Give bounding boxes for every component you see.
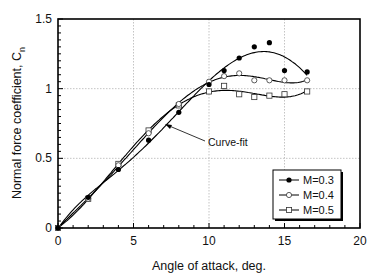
open-circle-marker — [267, 78, 272, 83]
open-circle-marker — [305, 78, 310, 83]
filled-circle-marker — [116, 167, 121, 172]
curve-fit-annotation: Curve-fit — [165, 124, 248, 148]
legend-shadow-side — [341, 172, 343, 221]
legend-label: M=0.5 — [303, 204, 334, 216]
open-circle-marker — [237, 71, 242, 76]
filled-circle-marker — [222, 68, 227, 73]
y-tick-label: 0 — [45, 221, 52, 235]
x-tick-label: 0 — [55, 234, 62, 248]
y-tick-label: 1 — [45, 82, 52, 96]
y-tick-label: 1.5 — [35, 12, 52, 26]
filled-circle-marker — [86, 195, 91, 200]
filled-circle-marker — [237, 55, 242, 60]
filled-circle-marker — [252, 44, 257, 49]
open-circle-marker — [282, 78, 287, 83]
filled-circle-marker — [286, 177, 291, 182]
filled-circle-marker — [146, 138, 151, 143]
x-axis-title: Angle of attack, deg. — [152, 259, 266, 273]
open-square-marker — [222, 83, 227, 88]
legend: M=0.3M=0.4M=0.5 — [273, 170, 343, 221]
filled-circle-marker — [206, 82, 211, 87]
open-square-marker — [237, 92, 242, 97]
x-tick-label: 15 — [278, 234, 292, 248]
open-circle-marker — [176, 101, 181, 106]
data-markers — [55, 40, 309, 231]
open-circle-marker — [222, 74, 227, 79]
x-tick-label: 10 — [202, 234, 216, 248]
filled-circle-marker — [282, 68, 287, 73]
x-tick-label: 20 — [353, 234, 367, 248]
y-axis-title: Normal force coefficient, Cn — [10, 47, 27, 199]
curve-fit-line — [58, 90, 307, 227]
x-tick-label: 5 — [130, 234, 137, 248]
filled-circle-marker — [305, 69, 310, 74]
normal-force-chart: 0510152000.511.5 Angle of attack, deg. N… — [0, 0, 376, 277]
y-tick-label: 0.5 — [35, 151, 52, 165]
filled-circle-marker — [176, 110, 181, 115]
open-circle-marker — [286, 192, 291, 197]
legend-shadow — [275, 219, 343, 221]
open-square-marker — [267, 93, 272, 98]
filled-circle-marker — [267, 40, 272, 45]
y-axis-title-subscript: n — [17, 47, 27, 52]
open-square-marker — [206, 89, 211, 94]
open-circle-marker — [146, 131, 151, 136]
open-square-marker — [282, 92, 287, 97]
open-circle-marker — [252, 78, 257, 83]
arrow-head-icon — [165, 124, 172, 129]
legend-label: M=0.4 — [303, 189, 334, 201]
y-axis-title-main: Normal force coefficient, C — [10, 52, 24, 199]
open-square-marker — [252, 94, 257, 99]
open-square-marker — [305, 89, 310, 94]
curve-fit-label: Curve-fit — [208, 136, 248, 148]
legend-label: M=0.3 — [303, 174, 334, 186]
open-square-marker — [286, 207, 291, 212]
annotation-arrow-line — [167, 125, 205, 141]
